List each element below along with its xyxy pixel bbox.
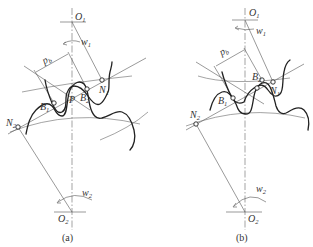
o1-n1-line-a (72, 22, 102, 80)
point-n2-b (194, 122, 198, 126)
o2-n2-line-a (18, 127, 72, 212)
label-b1-a: B1 (40, 101, 49, 113)
panel-a: O1 O2 w1 w2 pb N1 N2 B1 B2 P (a) (5, 8, 148, 244)
label-o1-a: O1 (75, 11, 85, 23)
panel-b: O1 O2 w1 w2 pb N1 N2 B1 B2 (b) (186, 7, 309, 244)
label-n1-b: N1 (269, 85, 280, 97)
point-b2-a (85, 87, 89, 91)
o2-n2-line-b (196, 124, 245, 212)
label-w2-b: w2 (256, 183, 267, 195)
label-pb-b: pb (216, 43, 230, 58)
label-n2-a: N2 (5, 117, 17, 129)
point-b1-a (52, 101, 56, 105)
label-b2-a: B2 (80, 92, 90, 104)
label-b2-b: B2 (252, 71, 262, 83)
label-w1-a: w1 (81, 36, 91, 48)
label-o2-a: O2 (58, 213, 69, 225)
gear-meshing-figure: O1 O2 w1 w2 pb N1 N2 B1 B2 P (a) (0, 0, 313, 247)
point-n2-a (16, 125, 20, 129)
label-o1-b: O1 (249, 7, 259, 19)
gear1-circle-a (22, 76, 132, 92)
caption-a: (a) (62, 232, 73, 244)
label-b1-b: B1 (218, 95, 227, 107)
point-contact-b (255, 86, 259, 90)
label-n2-b: N2 (189, 109, 201, 121)
point-n1-b (271, 80, 275, 84)
gear1-circle-b (198, 76, 290, 82)
point-b1-b (231, 96, 235, 100)
label-w2-a: w2 (82, 187, 93, 199)
label-pb-a: pb (39, 52, 53, 67)
point-n1-a (100, 78, 104, 82)
w1-arrow-a (63, 42, 67, 45)
label-p-a: P (68, 94, 75, 105)
label-o2-b: O2 (248, 213, 259, 225)
label-w1-b: w1 (256, 25, 266, 37)
caption-b: (b) (236, 232, 248, 244)
label-n1-a: N1 (98, 84, 109, 96)
